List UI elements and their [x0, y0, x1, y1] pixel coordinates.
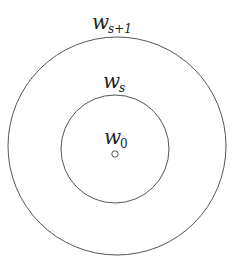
middle-circle: [61, 95, 169, 203]
svg-text:w: w: [103, 69, 120, 93]
label-outer: w s+1: [92, 10, 132, 36]
svg-text:w: w: [104, 125, 121, 149]
svg-text:s: s: [119, 81, 125, 95]
svg-text:w: w: [92, 10, 109, 34]
svg-text:s+1: s+1: [108, 22, 132, 36]
diagram-svg: w s+1 w s w 0: [0, 0, 236, 269]
svg-text:0: 0: [120, 137, 128, 151]
label-center: w 0: [104, 125, 128, 151]
label-middle: w s: [103, 69, 125, 95]
concentric-circles-diagram: w s+1 w s w 0: [0, 0, 236, 269]
center-point: [112, 151, 118, 157]
